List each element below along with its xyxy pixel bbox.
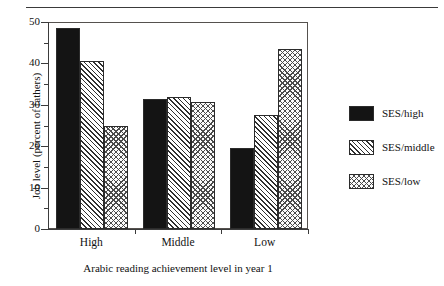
y-tick-major <box>41 105 48 106</box>
bar-middle-ses-middle <box>167 97 191 229</box>
top-divider-rule <box>26 7 438 8</box>
legend-swatch-crosshatch <box>349 174 374 189</box>
legend-item-ses-middle: SES/middle <box>349 139 441 161</box>
y-tick-major <box>41 22 48 23</box>
y-tick-minor <box>44 43 48 44</box>
legend-label: SES/low <box>382 174 421 189</box>
legend-swatch-solid <box>349 106 374 121</box>
y-tick-major <box>41 146 48 147</box>
bar-low-ses-low <box>278 49 302 229</box>
bar-series-area <box>49 22 308 229</box>
x-tick-label-middle: Middle <box>143 236 213 248</box>
y-tick-major <box>41 63 48 64</box>
bar-low-ses-middle <box>254 115 278 229</box>
x-tick-label-low: Low <box>230 236 300 248</box>
y-tick-minor <box>44 84 48 85</box>
y-tick-minor <box>44 208 48 209</box>
legend-label: SES/high <box>382 106 424 121</box>
x-tick-mark <box>308 229 309 234</box>
bar-high-ses-high <box>56 28 80 229</box>
x-tick-mark <box>135 229 136 234</box>
bar-high-ses-low <box>104 126 128 230</box>
bar-middle-ses-low <box>191 102 215 230</box>
legend-swatch-diagonal <box>349 140 374 155</box>
legend-item-ses-low: SES/low <box>349 173 441 195</box>
y-axis-title: Job level (percent of fathers) <box>30 36 42 236</box>
chart-figure: 01020304050 HighMiddleLow Job level (per… <box>0 0 444 286</box>
y-tick-major <box>41 188 48 189</box>
y-tick-minor <box>44 126 48 127</box>
x-tick-label-high: High <box>56 236 126 248</box>
x-axis-title: Arabic reading achievement level in year… <box>48 262 308 274</box>
legend-label: SES/middle <box>382 140 435 155</box>
bar-high-ses-middle <box>80 61 104 229</box>
bar-middle-ses-high <box>143 99 167 229</box>
legend-item-ses-high: SES/high <box>349 105 441 127</box>
bar-low-ses-high <box>230 148 254 229</box>
y-tick-minor <box>44 167 48 168</box>
y-tick-major <box>41 229 48 230</box>
y-axis-title-holder: Job level (percent of fathers) <box>8 20 24 230</box>
x-axis-line <box>48 229 309 230</box>
x-tick-mark <box>221 229 222 234</box>
chart-legend: SES/highSES/middleSES/low <box>349 105 441 207</box>
